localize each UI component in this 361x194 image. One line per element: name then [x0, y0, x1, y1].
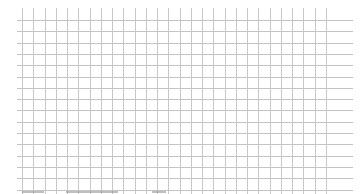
- bottom-edge-mark: [152, 191, 166, 193]
- grid-horizontal-line: [17, 88, 353, 89]
- grid-horizontal-line: [17, 144, 353, 145]
- grid-horizontal-line: [17, 31, 353, 32]
- grid-horizontal-line: [17, 99, 353, 100]
- grid-horizontal-line: [17, 122, 353, 123]
- grid-horizontal-line: [17, 20, 353, 21]
- bottom-edge-mark: [66, 191, 118, 193]
- graph-paper-grid: [0, 0, 361, 194]
- grid-horizontal-line: [17, 54, 353, 55]
- bottom-edge-mark: [22, 191, 44, 193]
- grid-horizontal-line: [17, 77, 353, 78]
- grid-horizontal-line: [17, 167, 353, 168]
- grid-horizontal-line: [17, 178, 353, 179]
- grid-horizontal-line: [17, 156, 353, 157]
- grid-horizontal-line: [17, 43, 353, 44]
- grid-horizontal-line: [17, 110, 353, 111]
- grid-horizontal-line: [17, 133, 353, 134]
- grid-horizontal-line: [17, 65, 353, 66]
